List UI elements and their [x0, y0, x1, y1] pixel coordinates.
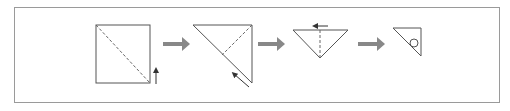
circle-mark-icon: [410, 39, 418, 47]
right-arrow-icon: [358, 37, 385, 51]
right-arrow-icon: [163, 37, 190, 51]
step-1-square: [96, 25, 156, 84]
step-3-inverted-triangle: [293, 26, 348, 58]
step-4-small-triangle: [393, 28, 421, 56]
folding-diagram: [0, 0, 510, 111]
step-2-triangle: [193, 25, 252, 87]
fold-arrow-up-left-icon: [234, 74, 249, 87]
right-arrow-icon: [258, 37, 285, 51]
